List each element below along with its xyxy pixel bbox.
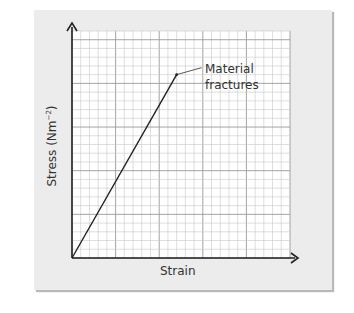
annotation-line-2: fractures	[205, 77, 259, 93]
annotation-line-1: Material	[205, 61, 259, 77]
y-label-main: Stress (Nm	[45, 120, 59, 186]
y-label-sup: −2	[45, 110, 53, 120]
x-axis-label: Strain	[160, 264, 196, 278]
y-axis-label: Stress (Nm−2)	[45, 105, 59, 186]
y-label-close: )	[45, 105, 59, 110]
annotation-label: Material fractures	[205, 61, 259, 93]
fracture-point	[175, 73, 178, 76]
